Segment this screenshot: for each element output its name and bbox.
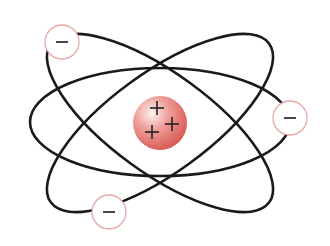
electron xyxy=(273,101,307,135)
atom-diagram xyxy=(0,0,330,246)
nucleus-sphere xyxy=(133,96,187,150)
nucleus xyxy=(133,96,187,150)
electron xyxy=(45,25,79,59)
electron xyxy=(92,195,126,229)
